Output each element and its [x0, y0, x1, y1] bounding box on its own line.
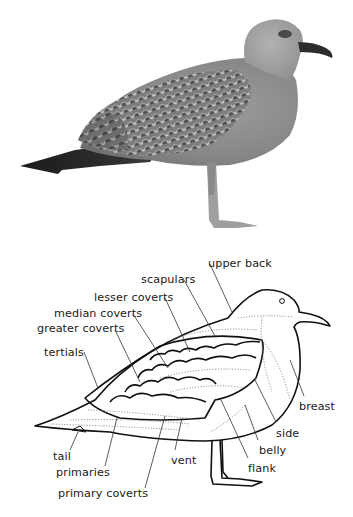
- label-tertials: tertials: [44, 346, 84, 359]
- label-breast: breast: [299, 400, 335, 413]
- topography-diagram: upper back scapulars lesser coverts medi…: [0, 240, 353, 517]
- label-primaries: primaries: [56, 466, 110, 479]
- gull-photo: [0, 0, 353, 240]
- label-primary-coverts: primary coverts: [58, 487, 148, 500]
- label-greater-coverts: greater coverts: [37, 322, 124, 335]
- gull-photo-image: [0, 0, 353, 240]
- label-vent: vent: [171, 454, 196, 467]
- label-flank: flank: [248, 462, 276, 475]
- label-upper-back: upper back: [208, 257, 272, 270]
- label-belly: belly: [259, 444, 286, 457]
- label-lesser-coverts: lesser coverts: [94, 291, 173, 304]
- label-side: side: [276, 427, 299, 440]
- label-median-coverts: median coverts: [54, 307, 142, 320]
- label-tail: tail: [53, 450, 71, 463]
- label-scapulars: scapulars: [141, 273, 195, 286]
